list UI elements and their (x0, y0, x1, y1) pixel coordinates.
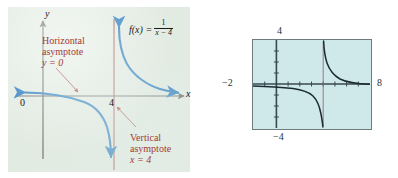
horizontal-asymptote-line1: Horizontal (42, 35, 85, 46)
vertical-asymptote-leader (117, 107, 136, 127)
calculator-figure-panel: 4 −4 −2 8 (200, 0, 398, 178)
x-tick-label-0: 0 (20, 97, 25, 108)
horizontal-asymptote-equation: y = 0 (42, 57, 85, 68)
calc-curve-left-branch (253, 86, 323, 127)
function-formula: f(x) = 1 x − 4 (129, 20, 173, 39)
textbook-graph-panel: y 0 4 Horizontal asymptote y = 0 Vertica… (8, 7, 190, 172)
vertical-asymptote-annotation: Vertical asymptote x = 4 (130, 132, 171, 166)
horizontal-asymptote-line2: asymptote (42, 46, 85, 57)
x-tick-label-4: 4 (109, 97, 114, 108)
horizontal-asymptote-leader (56, 68, 78, 92)
calc-xmin-label: −2 (222, 77, 233, 88)
horizontal-asymptote-annotation: Horizontal asymptote y = 0 (42, 35, 85, 69)
vertical-asymptote-equation: x = 4 (130, 154, 171, 165)
vertical-asymptote-line2: asymptote (130, 143, 171, 154)
calc-curve-right-branch (324, 41, 370, 84)
calculator-plot-svg (253, 40, 370, 128)
calc-xmax-label: 8 (377, 77, 382, 88)
function-formula-fraction: 1 x − 4 (154, 19, 173, 38)
x-axis-label: x (186, 88, 190, 99)
function-formula-denominator: x − 4 (154, 29, 173, 37)
calculator-screen (252, 39, 372, 130)
function-formula-lhs: f(x) = (129, 24, 152, 35)
calc-ymax-label: 4 (277, 25, 282, 36)
calc-ymin-label: −4 (273, 131, 284, 142)
curve-left-branch (25, 93, 111, 158)
vertical-asymptote-line1: Vertical (130, 132, 171, 143)
function-formula-numerator: 1 (160, 19, 168, 27)
y-axis-label: y (45, 8, 49, 19)
